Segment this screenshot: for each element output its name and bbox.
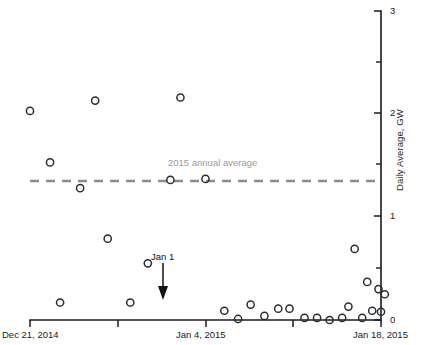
data-point [104, 235, 111, 242]
data-point [234, 315, 241, 322]
data-point [369, 307, 376, 314]
y-axis-title: Daily Average, GW [394, 109, 405, 191]
data-point [167, 176, 174, 183]
data-point [77, 185, 84, 192]
x-tick-label-start: Dec 21, 2014 [2, 330, 59, 340]
data-point [261, 312, 268, 319]
data-point [221, 307, 228, 314]
data-point [26, 107, 33, 114]
arrow-head [158, 286, 168, 300]
y-tick-label-2: 2 [390, 108, 395, 118]
data-point [381, 291, 388, 298]
x-tick-label-mid: Jan 4, 2015 [176, 330, 226, 340]
data-point [202, 175, 209, 182]
jan1-annotation-arrow [158, 263, 168, 300]
data-point [46, 159, 53, 166]
reference-line-label: 2015 annual average [168, 157, 257, 168]
data-point [364, 278, 371, 285]
jan1-annotation-label: Jan 1 [151, 251, 174, 262]
data-point [247, 301, 254, 308]
y-tick-label-1: 1 [390, 211, 395, 221]
data-point [127, 299, 134, 306]
y-tick-label-3: 3 [390, 6, 395, 16]
x-tick-label-end: Jan 18, 2015 [353, 330, 408, 340]
data-markers [26, 94, 388, 324]
data-point [351, 245, 358, 252]
data-point [92, 97, 99, 104]
data-point [177, 94, 184, 101]
scatter-plot-canvas [0, 0, 422, 345]
data-point [286, 305, 293, 312]
data-point [345, 303, 352, 310]
chart-figure: Daily Average, GW 3 2 1 0 Dec 21, 2014 J… [0, 0, 422, 345]
data-point [275, 305, 282, 312]
data-point [56, 299, 63, 306]
y-tick-label-0: 0 [390, 315, 395, 325]
